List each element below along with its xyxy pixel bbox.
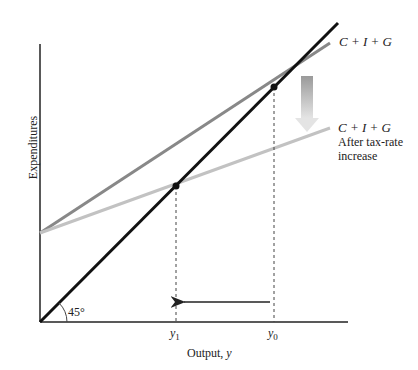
cig-after-tax-label-line1: C + I + G <box>338 121 403 135</box>
tick-y1: y1 <box>170 326 180 344</box>
cig-after-tax-label-line3: increase <box>338 149 403 163</box>
tick-y0-sub: 0 <box>273 332 278 342</box>
tick-y0: y0 <box>268 326 278 344</box>
keynesian-cross-diagram <box>0 0 418 370</box>
cig-label: C + I + G <box>339 35 392 49</box>
tick-y1-sub: 1 <box>175 332 180 342</box>
x-axis-label-text: Output, <box>187 346 226 360</box>
cig-after-tax-label: C + I + G After tax-rate increase <box>338 121 403 163</box>
cig-after-tax-label-line2: After tax-rate <box>338 135 403 149</box>
angle-label: 45° <box>68 305 85 319</box>
equilibrium-point-y0 <box>271 84 278 91</box>
cig-line <box>40 43 330 233</box>
y-axis-label: Expenditures <box>26 103 41 193</box>
45-degree-line <box>40 23 338 322</box>
cig-after-tax-line <box>40 128 330 233</box>
x-axis-label: Output, y <box>187 346 232 360</box>
angle-arc <box>59 303 67 322</box>
x-axis-var: y <box>226 346 231 360</box>
downward-shift-arrow-icon <box>295 76 319 132</box>
equilibrium-point-y1 <box>173 183 180 190</box>
